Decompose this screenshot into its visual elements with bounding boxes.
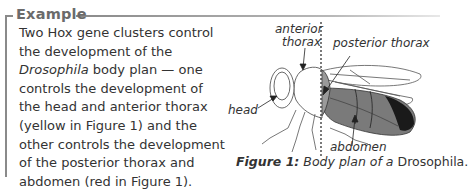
figure-caption: Figure 1: Body plan of a Drosophila. <box>236 154 468 169</box>
abdomen-icon <box>321 88 416 135</box>
label-anterior-thorax-1: anterior <box>275 22 324 36</box>
caption-species: Drosophila. <box>398 154 468 169</box>
body-line: of the posterior thorax and <box>19 154 219 173</box>
body-line: controls the development of <box>19 80 219 99</box>
body-line: abdomen (red in Figure 1). <box>19 173 219 192</box>
label-anterior-thorax-2: thorax <box>282 35 322 49</box>
box-frame-left <box>5 15 7 177</box>
label-abdomen: abdomen <box>330 140 387 154</box>
body-line: Drosophila body plan — one <box>19 61 219 80</box>
box-title: Example <box>16 6 87 22</box>
body-line: the head and anterior thorax <box>19 98 219 117</box>
caption-figure-number: Figure 1: <box>236 154 299 169</box>
label-posterior-thorax: posterior thorax <box>332 36 431 50</box>
body-line: Two Hox gene clusters control <box>19 24 219 43</box>
caption-text: Body plan of a <box>299 154 397 169</box>
body-line: other controls the development <box>19 136 219 155</box>
box-frame-top-left <box>5 15 13 17</box>
body-line: the development of the <box>19 43 219 62</box>
drosophila-body-plan-figure: anterior thorax posterior thorax head ab… <box>225 18 440 158</box>
example-body-text: Two Hox gene clusters control the develo… <box>19 24 219 191</box>
species-name: Drosophila <box>19 62 89 77</box>
body-line: (yellow in Figure 1) and the <box>19 117 219 136</box>
box-frame-top-right <box>76 15 440 17</box>
label-head: head <box>228 103 258 117</box>
